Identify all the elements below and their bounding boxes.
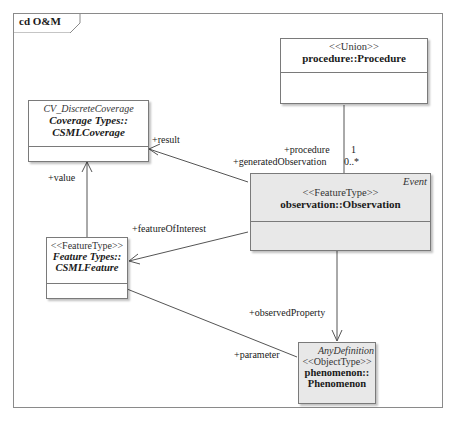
stereotype-label: <<ObjectType>> [300,356,374,367]
class-name-line2: CSMLCoverage [32,126,145,138]
role-procedure: +procedure [284,144,330,155]
role-parameter: +parameter [234,349,280,360]
class-name-line1: phenomenon:: [300,367,374,378]
tag-label: Event [254,176,427,187]
class-procedure[interactable]: <<Union>> procedure::Procedure [280,38,428,104]
class-procedure-header: <<Union>> procedure::Procedure [281,39,427,73]
role-feature-of-interest: +featureOfInterest [132,223,206,234]
role-generated-observation: +generatedObservation [233,156,326,167]
class-coverage-header: CV_DiscreteCoverage Coverage Types:: CSM… [29,101,148,147]
class-phenomenon-header: AnyDefinition <<ObjectType>> phenomenon:… [299,343,375,391]
class-observation-header: Event <<FeatureType>> observation::Obser… [251,174,430,222]
class-observation[interactable]: Event <<FeatureType>> observation::Obser… [250,173,431,251]
class-phenomenon[interactable]: AnyDefinition <<ObjectType>> phenomenon:… [298,342,376,404]
tag-label: AnyDefinition [300,345,374,356]
mult-generated-observation: 0..* [344,156,359,167]
class-name-line2: Phenomenon [300,378,374,389]
class-csml-feature[interactable]: <<FeatureType>> Feature Types:: CSMLFeat… [46,237,128,299]
class-name: observation::Observation [254,198,427,210]
class-name-line2: CSMLFeature [48,262,126,273]
tag-label: CV_DiscreteCoverage [32,103,145,114]
role-value: +value [48,172,75,183]
class-name: procedure::Procedure [284,52,424,64]
class-name-line1: Coverage Types:: [32,114,145,126]
stereotype-label: <<Union>> [284,41,424,52]
role-observed-property: +observedProperty [249,307,325,318]
stereotype-label: <<FeatureType>> [48,240,126,251]
class-name-line1: Feature Types:: [48,251,126,262]
mult-procedure: 1 [351,144,356,155]
class-feature-header: <<FeatureType>> Feature Types:: CSMLFeat… [47,238,127,284]
class-csml-coverage[interactable]: CV_DiscreteCoverage Coverage Types:: CSM… [28,100,149,162]
stereotype-label: <<FeatureType>> [254,187,427,198]
role-result: +result [152,134,180,145]
